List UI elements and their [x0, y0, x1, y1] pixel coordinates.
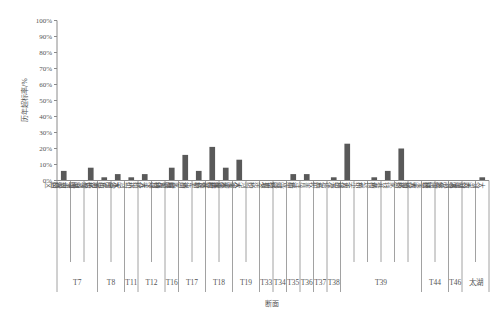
- group-label: T12: [145, 278, 157, 287]
- y-tick-label: 30%: [39, 129, 52, 137]
- y-axis: 0%10%20%30%40%50%60%70%80%90%100%: [36, 17, 57, 185]
- group-label: T35: [287, 278, 299, 287]
- group-label: T37: [314, 278, 326, 287]
- bar: [88, 168, 94, 181]
- group-label: T34: [274, 278, 286, 287]
- y-axis-title: 历年超标率/%: [20, 78, 29, 122]
- y-tick-label: 60%: [39, 81, 52, 89]
- x-axis: 望桥北干河口区长荡湖湖心区东浦桥九号桥小河水闸（新孟河闸）连江桥（下）钟楼大桥前…: [45, 180, 489, 292]
- group-label: T44: [429, 278, 441, 287]
- y-tick-label: 50%: [39, 97, 52, 105]
- y-tick-label: 100%: [36, 17, 53, 25]
- x-axis-title: 断面: [265, 299, 279, 308]
- category-label: 塘东桥（雁芳河）: [145, 180, 202, 188]
- bar: [398, 149, 404, 181]
- y-tick-label: 90%: [39, 33, 52, 41]
- group-label: T46: [449, 278, 461, 287]
- group-label: T18: [213, 278, 225, 287]
- category-label: 钱巷桥: [368, 180, 391, 188]
- group-label: T16: [166, 278, 178, 287]
- group-label: T7: [73, 278, 82, 287]
- group-label: 太湖: [469, 277, 483, 287]
- y-tick-label: 20%: [39, 145, 52, 153]
- category-label: 青洋桥: [287, 180, 310, 188]
- bar: [223, 168, 229, 181]
- bar: [344, 144, 350, 181]
- bar: [209, 147, 215, 181]
- y-tick-label: 70%: [39, 65, 52, 73]
- group-label: T38: [328, 278, 340, 287]
- bars: [61, 144, 485, 181]
- group-label: T11: [125, 278, 137, 287]
- group-label: T19: [240, 278, 252, 287]
- group-label: T8: [107, 278, 116, 287]
- bar-chart: 0%10%20%30%40%50%60%70%80%90%100% 望桥北干河口…: [0, 0, 504, 323]
- y-tick-label: 10%: [39, 161, 52, 169]
- group-label: T39: [375, 278, 387, 287]
- bar: [236, 160, 242, 181]
- group-label: T33: [260, 278, 272, 287]
- y-tick-label: 40%: [39, 113, 52, 121]
- category-label: 太湖西部区: [450, 180, 486, 188]
- bar: [182, 155, 188, 181]
- group-label: T17: [186, 278, 198, 287]
- group-label: T36: [301, 278, 313, 287]
- bar: [169, 168, 175, 181]
- y-tick-label: 80%: [39, 49, 52, 57]
